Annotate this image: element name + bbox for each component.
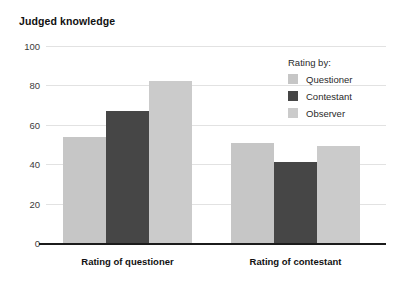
legend-swatch-icon — [288, 74, 298, 84]
legend-item-label: Observer — [306, 108, 345, 119]
x-axis-line — [39, 243, 386, 245]
legend-item[interactable]: Observer — [288, 105, 394, 121]
legend-item-label: Contestant — [306, 91, 352, 102]
bar — [149, 81, 192, 243]
bar — [63, 137, 106, 243]
bar-group — [63, 46, 192, 243]
y-axis-tick-label: 60 — [6, 119, 40, 130]
legend-items: QuestionerContestantObserver — [288, 71, 394, 121]
bar — [231, 143, 274, 243]
chart-title: Judged knowledge — [19, 15, 115, 27]
legend-title: Rating by: — [288, 57, 394, 68]
legend-item-label: Questioner — [306, 74, 352, 85]
legend: Rating by: QuestionerContestantObserver — [288, 57, 394, 122]
y-axis-tick-label: 0 — [6, 238, 40, 249]
y-axis-tick-label: 40 — [6, 159, 40, 170]
legend-swatch-icon — [288, 108, 298, 118]
y-axis: 020406080100 — [0, 46, 40, 243]
bar-chart: Judged knowledge 020406080100 Rating of … — [0, 0, 398, 281]
bar — [106, 111, 149, 243]
legend-item[interactable]: Contestant — [288, 88, 394, 104]
y-axis-tick-label: 80 — [6, 80, 40, 91]
legend-item[interactable]: Questioner — [288, 71, 394, 87]
bar — [317, 146, 360, 243]
bar — [274, 162, 317, 243]
x-axis-category-label: Rating of questioner — [81, 256, 173, 267]
legend-swatch-icon — [288, 91, 298, 101]
x-axis-category-label: Rating of contestant — [250, 256, 342, 267]
y-axis-tick-label: 20 — [6, 198, 40, 209]
y-axis-tick-label: 100 — [6, 41, 40, 52]
